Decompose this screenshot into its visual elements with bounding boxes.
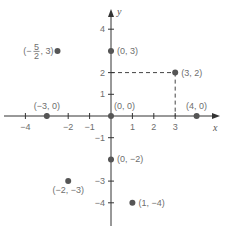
point-marker: [172, 70, 178, 76]
point-label: (−3, 0): [34, 101, 60, 111]
y-tick-label: −3: [95, 176, 105, 186]
x-tick-label: −4: [20, 122, 30, 132]
points: , 3)52(−(0, 3)(3, 2)(−3, 0)(0, 0)(4, 0)(…: [23, 42, 207, 208]
point-label: (4, 0): [186, 101, 207, 111]
x-tick-label: −2: [63, 122, 73, 132]
point-label: (0, 3): [117, 46, 138, 56]
svg-text:(−: (−: [23, 46, 31, 56]
point-label: , 3)52(−: [23, 42, 53, 61]
point-marker: [194, 113, 200, 119]
x-axis-label: x: [212, 122, 218, 133]
y-tick-label: 4: [100, 24, 105, 34]
point-label: (3, 2): [181, 68, 202, 78]
point-label: (0, 0): [114, 101, 135, 111]
svg-text:, 3): , 3): [40, 46, 53, 56]
point-marker: [108, 48, 114, 54]
x-tick-label: 3: [173, 122, 178, 132]
point-label: (0, −2): [117, 154, 143, 164]
x-tick-label: −1: [84, 122, 94, 132]
x-axis-arrow-icon: [212, 113, 220, 119]
y-tick-label: −4: [95, 198, 105, 208]
point-label: (1, −4): [138, 198, 164, 208]
y-axis-label: y: [116, 6, 122, 17]
point-marker: [129, 200, 135, 206]
point-marker: [108, 156, 114, 162]
point-marker: [44, 113, 50, 119]
y-tick-label: −1: [95, 133, 105, 143]
y-axis-arrow-icon: [108, 9, 114, 17]
point-marker: [55, 48, 61, 54]
point-marker: [108, 113, 114, 119]
x-tick-label: 2: [151, 122, 156, 132]
coordinate-plane: x y −4−2−1123421−1−3−4 , 3)52(−(0, 3)(3,…: [0, 0, 225, 232]
y-tick-label: 1: [100, 89, 105, 99]
point-label: (−2, −3): [52, 185, 84, 195]
point-marker: [65, 178, 71, 184]
y-tick-label: 2: [100, 68, 105, 78]
svg-text:2: 2: [34, 51, 39, 61]
x-tick-label: 1: [130, 122, 135, 132]
